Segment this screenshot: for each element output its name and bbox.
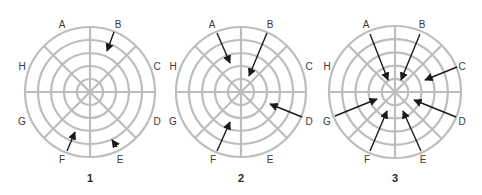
panel-1: ABCDEFGH1 [18,19,161,184]
sector-label-d: D [153,116,160,127]
panel-number: 2 [238,172,244,184]
panel-2: ABCDEFGH2 [169,19,313,184]
sector-label-c: C [458,61,465,72]
arrow-e-icon [112,140,117,147]
sector-label-e: E [117,154,124,165]
sector-label-c: C [305,61,312,72]
arrow-a-icon [217,33,230,63]
panel-number: 3 [392,172,398,184]
sector-label-a: A [59,19,66,30]
sector-label-a: A [209,19,216,30]
sector-label-c: C [153,61,160,72]
sector-label-b: B [115,19,122,30]
panel-3: ABCDEFGH3 [323,19,466,184]
sector-label-h: H [18,61,25,72]
sector-label-f: F [364,154,370,165]
sector-label-f: F [59,154,65,165]
sector-label-b: B [419,19,426,30]
sector-label-e: E [420,154,427,165]
sector-label-d: D [458,116,465,127]
arrow-b-icon [107,32,114,51]
polar-target-diagram: ABCDEFGH1ABCDEFGH2ABCDEFGH3 [0,0,482,195]
sector-label-e: E [267,154,274,165]
panel-number: 1 [87,172,93,184]
sector-label-b: B [267,19,274,30]
sector-label-a: A [363,19,370,30]
sector-label-h: H [323,61,330,72]
sector-label-d: D [305,116,312,127]
arrow-d-icon [414,100,456,117]
sector-label-g: G [323,116,331,127]
sector-label-h: H [169,61,176,72]
sector-label-f: F [210,154,216,165]
sector-label-g: G [18,116,26,127]
sector-label-g: G [169,116,177,127]
